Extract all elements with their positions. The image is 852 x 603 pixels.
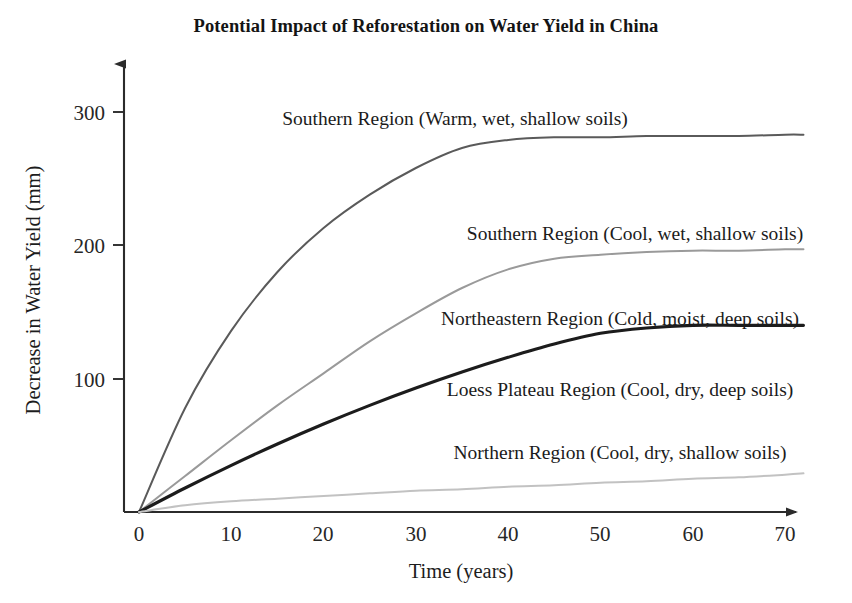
x-tick-label-50: 50 <box>590 522 611 546</box>
y-tick-label-200: 200 <box>74 234 106 258</box>
series-label-southern-warm: Southern Region (Warm, wet, shallow soil… <box>282 108 628 130</box>
y-tick-group: 300 200 100 <box>74 101 125 392</box>
line-chart-plot: 300 200 100 0 10 20 30 40 50 60 70 Time … <box>0 0 852 603</box>
x-tick-label-0: 0 <box>134 522 145 546</box>
series-label-southern-cool: Southern Region (Cool, wet, shallow soil… <box>467 223 803 245</box>
x-tick-label-40: 40 <box>498 522 519 546</box>
y-tick-label-100: 100 <box>74 368 106 392</box>
y-axis-title: Decrease in Water Yield (mm) <box>22 166 45 415</box>
series-label-northeastern: Northeastern Region (Cold, moist, deep s… <box>441 308 799 330</box>
x-axis-title: Time (years) <box>409 560 514 583</box>
x-tick-group: 0 10 20 30 40 50 60 70 <box>134 522 796 546</box>
x-tick-label-20: 20 <box>313 522 334 546</box>
x-tick-label-10: 10 <box>221 522 242 546</box>
x-tick-label-60: 60 <box>683 522 704 546</box>
y-tick-label-300: 300 <box>74 101 106 125</box>
series-label-loess-plateau: Loess Plateau Region (Cool, dry, deep so… <box>447 379 793 401</box>
series-label-northern: Northern Region (Cool, dry, shallow soil… <box>454 442 787 464</box>
series-curve-3 <box>139 325 803 512</box>
x-tick-label-30: 30 <box>406 522 427 546</box>
series-curve-5 <box>139 473 803 512</box>
figure-container: Potential Impact of Reforestation on Wat… <box>0 0 852 603</box>
x-tick-label-70: 70 <box>775 522 796 546</box>
